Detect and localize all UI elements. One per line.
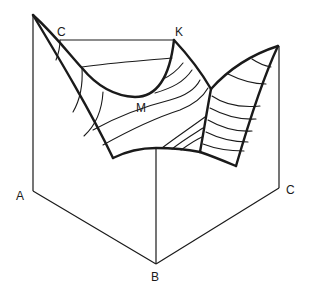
isotherms xyxy=(56,40,271,151)
isotherm xyxy=(208,120,252,131)
label-point-m: M xyxy=(136,101,146,115)
isotherm xyxy=(82,58,172,67)
isotherm xyxy=(162,117,205,148)
surface-edge-k-valley xyxy=(174,40,211,89)
surface-edge-bottom-right xyxy=(200,152,236,166)
liquidus-surface-outline xyxy=(33,15,278,166)
isotherm xyxy=(206,132,248,142)
isotherm xyxy=(203,144,244,151)
label-vertex-a: A xyxy=(16,189,24,203)
base-edge-ab xyxy=(33,191,156,264)
ternary-diagram: C K M A B C xyxy=(0,0,311,295)
isotherm xyxy=(228,74,266,84)
base-edge-bc xyxy=(156,188,279,264)
label-point-c-top: C xyxy=(57,25,66,39)
label-vertex-b: B xyxy=(151,270,159,284)
surface-edge-c-m-k xyxy=(33,15,174,97)
label-point-k: K xyxy=(175,25,183,39)
isotherm xyxy=(212,96,260,107)
isotherm xyxy=(210,108,256,119)
label-vertex-c: C xyxy=(286,183,295,197)
isotherm xyxy=(181,137,202,150)
isotherm xyxy=(103,88,208,145)
